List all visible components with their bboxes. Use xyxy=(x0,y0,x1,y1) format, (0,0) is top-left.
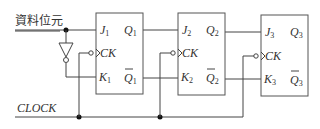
svg-text:CK: CK xyxy=(100,46,117,60)
ck3-bubble xyxy=(254,54,258,58)
ck3-wire xyxy=(243,56,254,117)
clock-label: CLOCK xyxy=(17,101,57,115)
svg-text:CK: CK xyxy=(182,46,199,60)
ck1-bubble xyxy=(89,51,93,55)
k1-input-wire xyxy=(66,63,96,77)
shift-register-diagram: J1 CK K1 Q1 Q1 J2 CK K2 Q2 Q2 J3 CK K3 Q… xyxy=(0,0,320,129)
flip-flop-2: J2 CK K2 Q2 Q2 xyxy=(171,13,225,95)
flip-flop-1: J1 CK K1 Q1 Q1 xyxy=(89,13,143,94)
svg-text:CK: CK xyxy=(265,49,282,63)
flip-flop-3: J3 CK K3 Q3 Q3 xyxy=(254,15,308,96)
ck2-wire xyxy=(160,53,171,117)
inverter-bubble xyxy=(64,58,69,63)
ck2-bubble xyxy=(171,51,175,55)
data-input-label: 資料位元 xyxy=(15,13,63,28)
ck1-wire xyxy=(79,53,89,117)
inverter-icon xyxy=(59,43,73,57)
